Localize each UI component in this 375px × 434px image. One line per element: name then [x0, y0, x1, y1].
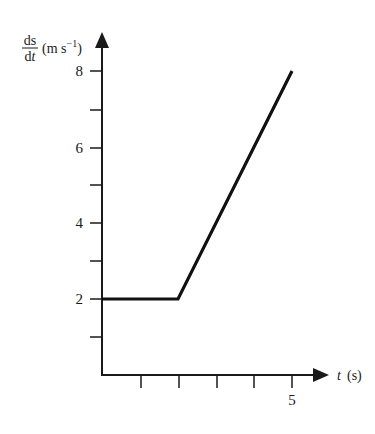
- y-ticks: [90, 71, 102, 337]
- y-axis-label: ds dt (m s−1): [22, 33, 82, 64]
- y-label-numerator: ds: [24, 33, 36, 48]
- x-axis-arrow-icon: [313, 368, 329, 382]
- velocity-time-chart: 8 6 4 2 5 ds dt (m s−1) t (s): [0, 0, 375, 434]
- y-tick-label-6: 6: [76, 140, 84, 156]
- x-label-unit: (s): [347, 368, 362, 384]
- y-label-unit: (m s−1): [42, 38, 82, 57]
- y-tick-label-4: 4: [76, 215, 84, 231]
- y-label-denominator: dt: [25, 49, 37, 64]
- x-axis-label: t (s): [337, 368, 362, 384]
- x-tick-label-5: 5: [288, 392, 296, 408]
- x-label-variable: t: [337, 368, 342, 383]
- y-tick-label-8: 8: [76, 63, 84, 79]
- velocity-series-line: [102, 71, 292, 299]
- x-ticks: [141, 375, 292, 388]
- y-axis-arrow-icon: [95, 32, 109, 48]
- y-tick-label-2: 2: [76, 291, 84, 307]
